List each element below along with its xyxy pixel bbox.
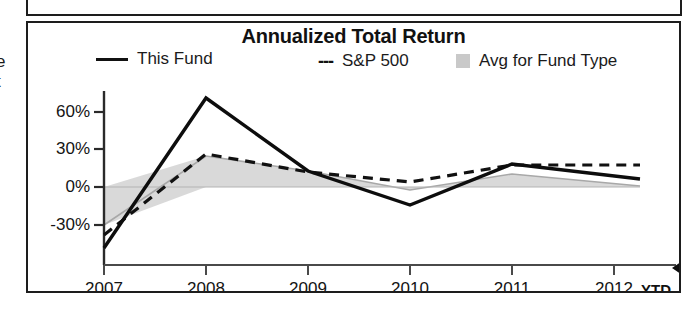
annualized-total-return-chart: Annualized Total Return This Fund --- S&… [26, 21, 681, 293]
x-axis-label-2012: 2012 [579, 279, 649, 293]
chart-svg [28, 23, 681, 293]
left-fragment-2: t [0, 72, 12, 92]
x-axis-label-2010: 2010 [375, 279, 445, 293]
x-axis-label-2009: 2009 [273, 279, 343, 293]
avg-fund-type-area [104, 156, 640, 190]
plot-area: 60% 30% 0% -30% 2007 2008 2009 2010 2011… [28, 23, 681, 293]
top-cutoff-panel [26, 0, 682, 16]
x-axis-label-ytd: YTD [641, 281, 671, 293]
y-axis-label-0: 0% [28, 177, 90, 197]
right-edge-arrow-marker [672, 259, 681, 277]
x-axis-label-2008: 2008 [171, 279, 241, 293]
y-axis-label-30: 30% [28, 139, 90, 159]
y-axis-label-neg30: -30% [28, 215, 90, 235]
y-axis-label-60: 60% [28, 102, 90, 122]
x-axis-label-2007: 2007 [69, 279, 139, 293]
left-fragment-1: e [0, 52, 12, 72]
left-clipped-text-fragments: e t [0, 52, 12, 92]
x-axis-label-2011: 2011 [477, 279, 547, 293]
avg-fund-type-area-negative [104, 187, 206, 225]
